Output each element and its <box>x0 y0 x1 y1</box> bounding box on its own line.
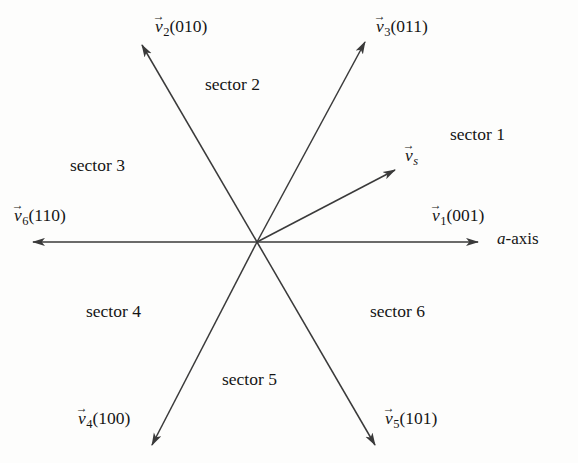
vector-subscript-v1: 1 <box>440 214 447 228</box>
vector-label-v1: →v1(001) <box>432 206 484 227</box>
vector-symbol-v3: →v <box>376 17 384 36</box>
vector-label-v5: →v5(101) <box>385 409 437 430</box>
reference-vector-line-group <box>257 170 395 242</box>
vector-symbol-v4: →v <box>78 409 86 428</box>
vector-arrow-accent-icon: → <box>76 402 88 414</box>
vector-symbol-v6: →v <box>14 206 22 225</box>
sector-label-6: sector 6 <box>370 303 425 321</box>
vector-arrow-accent-icon: → <box>430 199 442 211</box>
vector-subscript-v5: 5 <box>393 417 400 431</box>
sector-label-5: sector 5 <box>222 371 277 389</box>
vector-symbol-v2: →v <box>155 17 163 36</box>
vector-subscript-vs: s <box>413 154 418 168</box>
vector-arrow-accent-icon: → <box>374 10 386 22</box>
vector-label-v2: →v2(010) <box>155 17 207 38</box>
vector-line-v4 <box>152 242 257 445</box>
vector-label-vs: →vs <box>405 146 418 167</box>
vector-subscript-v3: 3 <box>384 25 391 39</box>
vector-line-v5 <box>257 242 375 445</box>
vector-symbol-v1: →v <box>432 206 440 225</box>
vector-label-v6: →v6(110) <box>14 206 66 227</box>
vector-arrow-accent-icon: → <box>383 402 395 414</box>
axis-suffix: -axis <box>506 229 539 248</box>
vector-symbol-v5: →v <box>385 409 393 428</box>
space-vector-diagram: sector 1 sector 2 sector 3 sector 4 sect… <box>0 0 578 463</box>
vector-state-v6: (110) <box>29 205 66 225</box>
vector-state-v1: (001) <box>447 205 485 225</box>
vector-subscript-v2: 2 <box>163 25 170 39</box>
sector-label-1: sector 1 <box>450 126 505 144</box>
axis-letter: a <box>497 229 506 248</box>
vector-arrow-accent-icon: → <box>403 139 415 151</box>
vector-line-v3 <box>257 42 365 242</box>
sector-label-2: sector 2 <box>205 76 260 94</box>
vector-label-v3: →v3(011) <box>376 17 428 38</box>
vector-state-v4: (100) <box>93 408 131 428</box>
reference-vector-line-vs <box>257 170 395 242</box>
a-axis-label: a-axis <box>497 230 539 247</box>
vector-arrow-accent-icon: → <box>153 10 165 22</box>
vector-subscript-v6: 6 <box>22 214 29 228</box>
sector-label-3: sector 3 <box>70 157 125 175</box>
vector-symbol-vs: →v <box>405 146 413 165</box>
vector-state-v5: (101) <box>400 408 438 428</box>
vector-arrow-accent-icon: → <box>12 199 24 211</box>
vector-state-v2: (010) <box>170 16 208 36</box>
vector-label-v4: →v4(100) <box>78 409 130 430</box>
vector-state-v3: (011) <box>391 16 428 36</box>
vector-lines-canvas <box>0 0 578 463</box>
sector-label-4: sector 4 <box>86 303 141 321</box>
vector-subscript-v4: 4 <box>86 417 93 431</box>
